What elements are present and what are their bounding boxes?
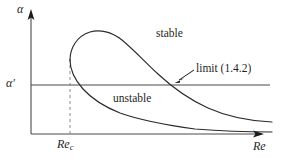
x-axis-label: Re [253,140,266,152]
limit-callout-leader-line [179,70,194,80]
unstable-region-label: unstable [113,93,151,105]
re-c-base: Re [57,137,70,151]
figure-container: α α′ Rec Re stable unstable limit (1.4.2… [0,0,286,165]
re-c-subscript: c [70,142,74,152]
stability-diagram-svg [0,0,286,165]
y-axis-tick-label-alpha-prime: α′ [6,77,15,89]
limit-annotation-label: limit (1.4.2) [196,63,251,75]
limit-callout-arrowhead-icon [175,79,185,84]
neutral-curve-upper-branch [70,31,272,122]
x-axis-tick-label-critical-reynolds: Rec [57,138,74,152]
y-axis-label: α [17,3,23,15]
stable-region-label: stable [156,28,183,40]
